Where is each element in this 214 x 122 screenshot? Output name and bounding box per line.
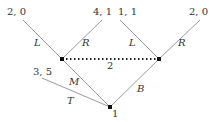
payoff-M-L: 2, 0 — [7, 6, 26, 17]
decision-node-right — [157, 57, 161, 61]
edge-right-L — [120, 20, 159, 59]
action-right-R: R — [177, 37, 186, 48]
payoff-B-R: 2, 0 — [189, 6, 208, 17]
action-left-R: R — [81, 37, 90, 48]
edge-left-L — [23, 20, 62, 59]
player-1-label: 1 — [112, 108, 118, 119]
action-M: M — [68, 76, 80, 87]
action-left-L: L — [33, 37, 41, 48]
game-tree: 2, 0 4, 1 1, 1 2, 0 3, 5 L R L R M T B 2… — [0, 0, 214, 122]
player-2-label: 2 — [107, 60, 113, 71]
action-B: B — [136, 83, 144, 94]
action-T: T — [67, 95, 75, 106]
payoff-B-L: 1, 1 — [118, 6, 137, 17]
payoff-T: 3, 5 — [33, 66, 52, 77]
decision-node-left — [60, 57, 64, 61]
payoff-M-R: 4, 1 — [93, 6, 112, 17]
action-right-L: L — [128, 37, 136, 48]
edge-B — [110, 59, 159, 107]
